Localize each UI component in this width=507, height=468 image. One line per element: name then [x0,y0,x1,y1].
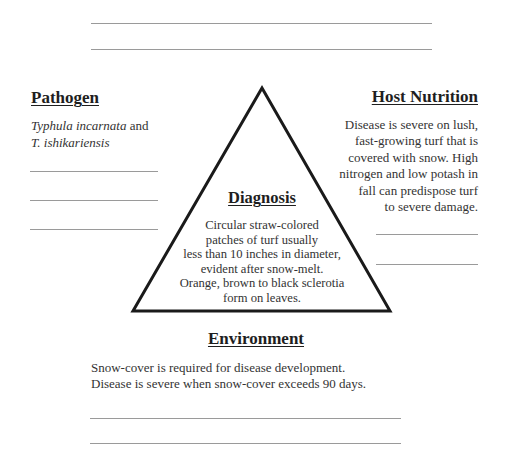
environment-heading: Environment [0,329,507,349]
pathogen-blank-line-3 [30,229,158,230]
pathogen-blank-line-1 [30,171,158,172]
pathogen-connector: and [126,118,148,133]
pathogen-text: Typhula incarnata andT. ishikariensis [31,118,171,151]
environment-blank-line-2 [90,443,401,444]
pathogen-species-2: T. ishikariensis [31,135,110,150]
host-blank-line-1 [376,234,478,235]
pathogen-species-1: Typhula incarnata [31,118,126,133]
diagnosis-text: Circular straw-colored patches of turf u… [162,218,362,305]
environment-blank-line-1 [90,418,401,419]
host-blank-line-2 [376,264,478,265]
pathogen-heading: Pathogen [31,88,99,108]
environment-text: Snow-cover is required for disease devel… [91,360,421,392]
host-nutrition-heading: Host Nutrition [372,87,478,107]
diagnosis-heading: Diagnosis [0,188,507,208]
